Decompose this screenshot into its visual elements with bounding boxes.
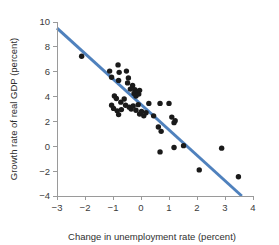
data-point	[166, 101, 171, 106]
data-point	[181, 143, 186, 148]
chart-canvas: −3−2−101234 −4−20246810 Change in unempl…	[0, 0, 279, 245]
data-point	[119, 107, 124, 112]
trendline-group	[57, 28, 242, 196]
data-point	[124, 68, 129, 73]
regression-trend-line	[57, 28, 242, 196]
x-tick-label: 3	[222, 202, 227, 213]
data-point	[126, 75, 131, 80]
data-point	[114, 96, 119, 101]
data-point	[171, 145, 176, 150]
y-axis-tick-labels: −4−20246810	[39, 16, 57, 201]
data-point	[125, 80, 130, 85]
x-tick-label: 1	[166, 202, 171, 213]
y-tick-label: 0	[45, 141, 50, 152]
y-axis-title: Growth rate of real GDP (percent)	[8, 38, 19, 180]
data-point	[146, 101, 151, 106]
data-point	[236, 174, 241, 179]
axes-group	[57, 22, 253, 196]
x-tick-label: 2	[194, 202, 199, 213]
y-tick-label: −2	[39, 166, 50, 177]
y-tick-label: 6	[45, 66, 50, 77]
data-point	[107, 68, 112, 73]
data-point	[157, 149, 162, 154]
y-tick-label: 10	[39, 16, 50, 27]
data-point	[137, 88, 142, 93]
data-point	[197, 167, 202, 172]
y-tick-label: −4	[39, 190, 50, 201]
data-point	[157, 101, 162, 106]
data-point	[116, 112, 121, 117]
x-tick-label: −1	[108, 202, 119, 213]
scatter-chart-okuns-law: −3−2−101234 −4−20246810 Change in unempl…	[0, 0, 279, 245]
y-tick-label: 4	[45, 91, 50, 102]
x-tick-label: −2	[80, 202, 91, 213]
data-point	[136, 102, 141, 107]
data-point	[116, 78, 121, 83]
data-point	[219, 145, 224, 150]
data-point	[158, 129, 163, 134]
y-tick-label: 8	[45, 41, 50, 52]
x-tick-label: −3	[52, 202, 63, 213]
x-tick-label: 0	[138, 202, 143, 213]
data-point	[151, 113, 156, 118]
data-point	[115, 62, 120, 67]
x-axis-tick-labels: −3−2−101234	[52, 196, 256, 213]
data-points-group	[79, 53, 241, 179]
y-tick-label: 2	[45, 116, 50, 127]
data-point	[122, 96, 127, 101]
data-point	[116, 70, 121, 75]
data-point	[143, 110, 148, 115]
data-point	[172, 118, 177, 123]
data-point	[109, 75, 114, 80]
data-point	[79, 53, 84, 58]
x-axis-title: Change in unemployment rate (percent)	[68, 231, 236, 242]
x-tick-label: 4	[250, 202, 255, 213]
